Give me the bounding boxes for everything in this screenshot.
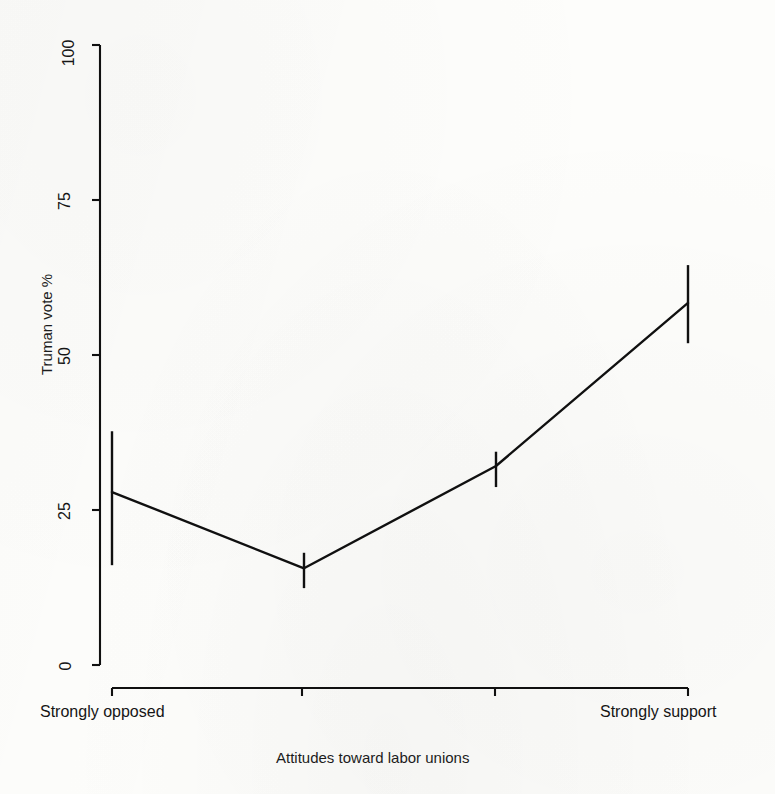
y-tick-label-50: 50 (56, 347, 74, 365)
x-label-strongly-support: Strongly support (600, 703, 717, 721)
x-label-strongly-opposed: Strongly opposed (40, 703, 165, 721)
error-bar-group (112, 265, 688, 588)
series-line-truman-vote (112, 303, 688, 568)
x-axis-title: Attitudes toward labor unions (276, 749, 469, 766)
truman-vote-line-chart (0, 0, 775, 794)
y-tick-label-75: 75 (56, 192, 74, 210)
y-axis (92, 45, 100, 665)
y-tick-label-25: 25 (56, 502, 74, 520)
y-tick-label-0: 0 (57, 662, 75, 671)
chart-page: Truman vote % 0 25 50 75 100 Strongly op… (0, 0, 775, 794)
x-axis (112, 688, 688, 696)
y-axis-title: Truman vote % (38, 274, 55, 375)
y-tick-label-100: 100 (60, 40, 78, 67)
